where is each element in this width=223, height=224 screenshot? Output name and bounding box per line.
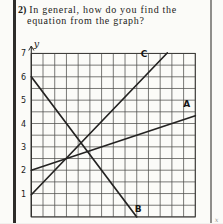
y-tick-label: 6: [21, 73, 26, 82]
y-tick-label: 1: [21, 190, 26, 199]
x-axis-label: x: [215, 216, 219, 224]
y-tick-label: 5: [21, 96, 26, 105]
line-label-A: A: [183, 99, 190, 109]
line-label-C: C: [141, 49, 148, 59]
y-tick-label: 2: [21, 166, 26, 175]
y-tick-label: 7: [21, 49, 26, 58]
y-axis-label: y: [33, 38, 40, 49]
y-tick-label: 4: [21, 120, 26, 129]
worksheet-page: 2)In general, how do you find the equati…: [0, 0, 223, 223]
line-label-B: B: [135, 204, 142, 214]
graph-canvas: CAB7654321yx: [0, 0, 223, 223]
y-tick-label: 3: [21, 143, 26, 152]
